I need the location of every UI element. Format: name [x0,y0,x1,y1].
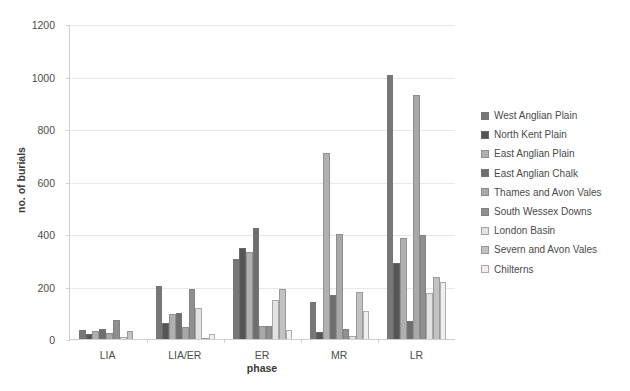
bar [407,321,414,339]
legend-swatch-icon [481,169,489,177]
legend-item[interactable]: East Anglian Plain [481,144,629,163]
x-tick-label: LIA/ER [146,341,223,363]
legend-label: West Anglian Plain [494,110,577,121]
y-tick-label: 800 [37,124,55,136]
bar [169,314,176,339]
bar [363,311,370,339]
y-tick-label: 1000 [32,72,55,84]
legend-swatch-icon [481,246,489,254]
bar [323,153,330,339]
bar [420,235,427,339]
bar [433,277,440,339]
bar-group [301,25,378,339]
legend-label: East Anglian Plain [494,148,575,159]
bars [233,25,292,339]
legend-item[interactable]: North Kent Plain [481,125,629,144]
legend-label: South Wessex Downs [494,206,592,217]
bar [195,308,202,340]
y-tick-label: 400 [37,229,55,241]
legend-item[interactable]: Chilterns [481,260,629,279]
legend-item[interactable]: Thames and Avon Vales [481,183,629,202]
bar [400,238,407,339]
bar [349,336,356,339]
y-tick-label: 0 [49,334,55,346]
legend-item[interactable]: London Basin [481,221,629,240]
bar [356,292,363,339]
plot-area [69,25,455,340]
bar [343,329,350,340]
legend-swatch-icon [481,265,489,273]
legend: West Anglian PlainNorth Kent PlainEast A… [481,106,629,279]
chart-figure: no. of burials 020040060080010001200 LIA… [0,0,630,391]
legend-item[interactable]: West Anglian Plain [481,106,629,125]
bar [279,289,286,339]
x-tick-label: LIA [69,341,146,363]
bar [253,228,260,339]
bar-group [378,25,455,339]
legend-label: London Basin [494,225,555,236]
bar [336,234,343,339]
bar [440,282,447,339]
bar [209,334,216,339]
legend-item[interactable]: East Anglian Chalk [481,164,629,183]
bar-group [224,25,301,339]
bar [259,326,266,339]
bar [113,320,120,339]
legend-label: North Kent Plain [494,129,567,140]
bar [387,75,394,339]
y-tick-label: 600 [37,177,55,189]
bar [176,313,183,339]
bar [106,333,113,339]
bar [120,337,127,339]
bar-group [147,25,224,339]
bar [266,326,273,339]
x-axis-title: phase [69,362,455,374]
legend-swatch-icon [481,131,489,139]
x-axis-tick-labels: LIALIA/ERERMRLR [69,341,455,363]
bar [330,295,337,339]
legend-label: East Anglian Chalk [494,168,578,179]
bar [272,300,279,339]
legend-swatch-icon [481,112,489,120]
bar [189,289,196,339]
bar [202,338,209,339]
bar [92,331,99,339]
bar [79,330,86,339]
bar [233,259,240,339]
x-tick-label: MR [301,341,378,363]
legend-label: Thames and Avon Vales [494,187,601,198]
bar [156,286,163,339]
x-tick-label: LR [378,341,455,363]
legend-item[interactable]: South Wessex Downs [481,202,629,221]
bar [162,323,169,339]
bar [286,330,293,339]
legend-swatch-icon [481,188,489,196]
bar [99,329,106,340]
y-tick-label: 1200 [32,19,55,31]
bar [182,327,189,339]
bar [316,332,323,339]
bar-group [70,25,147,339]
bars [310,25,369,339]
bar-groups [70,25,455,339]
bar [426,293,433,339]
bars [156,25,215,339]
x-tick-label: ER [223,341,300,363]
bar [413,95,420,339]
bars [387,25,446,339]
legend-swatch-icon [481,208,489,216]
y-axis-tick-labels: 020040060080010001200 [0,25,63,340]
bar [246,252,253,339]
bar [239,248,246,339]
legend-label: Chilterns [494,264,533,275]
legend-label: Severn and Avon Vales [494,244,597,255]
y-tick-label: 200 [37,282,55,294]
bar [310,302,317,339]
bars [79,25,138,339]
legend-swatch-icon [481,227,489,235]
bar [393,263,400,339]
bar [127,331,134,339]
bar [86,334,93,339]
legend-item[interactable]: Severn and Avon Vales [481,240,629,259]
legend-swatch-icon [481,150,489,158]
